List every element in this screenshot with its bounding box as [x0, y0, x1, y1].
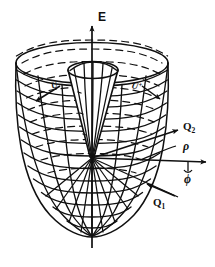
figure-container: E U− U+ Q2 ρ ϕ Q1: [0, 0, 215, 267]
mexican-hat-potential-diagram: E U− U+ Q2 ρ ϕ Q1: [0, 0, 215, 267]
rho-axis-label: ρ: [182, 139, 189, 153]
phi-axis-label: ϕ: [184, 172, 191, 186]
energy-axis-label: E: [98, 10, 106, 24]
